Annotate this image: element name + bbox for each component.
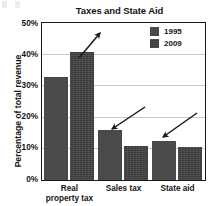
bar-1995-sales-tax bbox=[98, 130, 122, 180]
y-tick-label: 40% bbox=[8, 50, 38, 59]
x-tick-label: Sales tax bbox=[97, 184, 151, 194]
legend-swatch-2009 bbox=[150, 39, 159, 48]
gridline bbox=[42, 54, 205, 55]
x-tick-label: Realproperty tax bbox=[43, 184, 97, 203]
bar-2009-real-property-tax bbox=[70, 52, 94, 180]
chart-title: Taxes and State Aid bbox=[30, 5, 209, 16]
legend-label-2009: 2009 bbox=[164, 39, 182, 48]
legend-item-1995: 1995 bbox=[150, 27, 182, 36]
bar-chart: Taxes and State Aid Percentage of total … bbox=[0, 0, 209, 206]
y-tick-label: 10% bbox=[8, 143, 38, 152]
bar-1995-state-aid bbox=[152, 141, 176, 180]
bar-2009-sales-tax bbox=[124, 146, 148, 180]
x-tick-label: State aid bbox=[151, 184, 205, 194]
bar-1995-real-property-tax bbox=[44, 77, 68, 180]
legend-label-1995: 1995 bbox=[164, 27, 182, 36]
y-tick-label: 50% bbox=[8, 19, 38, 28]
y-tick-label: 30% bbox=[8, 81, 38, 90]
legend-item-2009: 2009 bbox=[150, 39, 182, 48]
y-tick-label: 20% bbox=[8, 112, 38, 121]
legend-swatch-1995 bbox=[150, 27, 159, 36]
legend: 1995 2009 bbox=[150, 27, 182, 51]
bar-2009-state-aid bbox=[178, 147, 202, 180]
scan-artifact bbox=[2, 1, 28, 8]
y-tick-label: 0% bbox=[8, 175, 38, 184]
